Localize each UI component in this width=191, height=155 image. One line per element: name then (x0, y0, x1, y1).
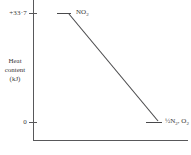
y-axis-tick-label-upper: +33·7 (0, 9, 27, 17)
species-upper-subscript: 2 (86, 12, 89, 17)
y-axis-line (33, 0, 34, 141)
x-axis-line (33, 140, 188, 141)
energy-level-diagram: +33·7 0 Heat content (kJ) NO2 ½N2, O2 (0, 0, 191, 155)
y-axis-title-line-2: content (0, 66, 30, 75)
y-axis-tick-zero (29, 122, 37, 123)
enthalpy-transition-segment (69, 14, 158, 121)
energy-level-marker-lower (146, 122, 162, 123)
y-axis-tick-label-zero: 0 (0, 118, 27, 126)
species-lower-nitrogen-subscript: 2 (175, 121, 178, 126)
species-label-no2: NO2 (76, 8, 89, 17)
species-lower-oxygen-subscript: 2 (186, 121, 189, 126)
y-axis-tick-upper (29, 13, 37, 14)
species-upper-formula: NO (76, 8, 86, 16)
y-axis-title-line-1: Heat (0, 57, 30, 66)
y-axis-title: Heat content (kJ) (0, 57, 30, 84)
energy-level-marker-upper (57, 13, 71, 14)
y-axis-title-line-3: (kJ) (0, 75, 30, 84)
species-label-n2-o2: ½N2, O2 (165, 117, 189, 126)
